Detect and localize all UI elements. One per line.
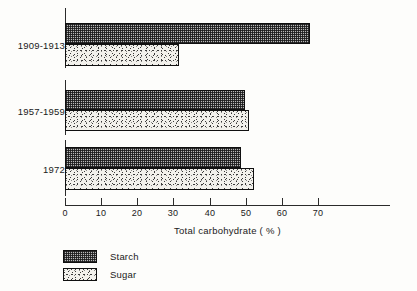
category-label-1972: 1972 — [43, 164, 65, 175]
x-axis-title: Total carbohydrate ( % ) — [65, 225, 390, 236]
x-axis-tick-label: 20 — [132, 208, 142, 218]
x-axis-tick — [318, 198, 319, 206]
bar-sugar-1957-1959 — [65, 110, 249, 131]
category-label-1909-1913: 1909-1913 — [18, 40, 65, 51]
x-axis-tick-label: 10 — [96, 208, 106, 218]
legend-swatch-starch — [63, 250, 97, 263]
x-axis-tick-label: 50 — [241, 208, 251, 218]
legend-swatch-sugar — [63, 268, 97, 281]
x-axis-tick-label: 60 — [277, 208, 287, 218]
bar-sugar-1909-1913 — [65, 44, 179, 66]
bar-starch-1972 — [65, 147, 241, 168]
bar-chart: 0 10 20 30 40 50 60 70 Total carbohydrat… — [0, 0, 417, 291]
x-axis-tick — [101, 198, 102, 206]
category-label-1957-1959: 1957-1959 — [18, 106, 65, 117]
legend-label-sugar: Sugar — [110, 269, 136, 280]
bar-starch-1909-1913 — [65, 23, 310, 44]
x-axis-tick — [65, 198, 66, 206]
x-axis-tick-label: 40 — [205, 208, 215, 218]
legend-label-starch: Starch — [110, 251, 139, 262]
x-axis-tick-label: 70 — [313, 208, 323, 218]
x-axis-tick — [282, 198, 283, 206]
bar-starch-1957-1959 — [65, 90, 245, 110]
bar-sugar-1972 — [65, 168, 254, 190]
x-axis-tick — [210, 198, 211, 206]
x-axis-line — [65, 205, 390, 206]
plot-area: 0 10 20 30 40 50 60 70 Total carbohydrat… — [0, 0, 417, 291]
x-axis-tick — [137, 198, 138, 206]
x-axis-tick-label: 0 — [62, 208, 67, 218]
x-axis-tick-label: 30 — [168, 208, 178, 218]
x-axis-tick — [246, 198, 247, 206]
x-axis-tick — [173, 198, 174, 206]
